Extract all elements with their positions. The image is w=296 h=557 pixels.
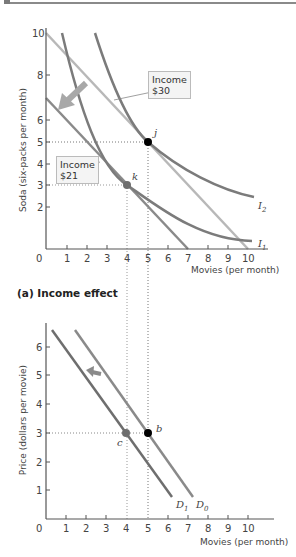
top-y-ticks: 10 8 6 5 4 3 2: [32, 28, 50, 213]
callout-income-30: Income $30: [148, 71, 191, 99]
svg-text:0: 0: [36, 253, 42, 264]
svg-text:10: 10: [242, 253, 255, 264]
i1-label: I1: [257, 238, 266, 252]
point-b: [144, 429, 152, 437]
income-effect-chart: j k I2 I1 10 8 6 5 4 3 2: [18, 28, 279, 520]
svg-text:5: 5: [145, 253, 151, 264]
svg-text:1: 1: [64, 253, 70, 264]
callout-21-line2: $21: [60, 170, 95, 181]
top-y-axis-label: Soda (six-packs per month): [18, 88, 28, 212]
svg-text:8: 8: [205, 523, 211, 534]
svg-text:10: 10: [32, 28, 45, 39]
i2-label: I2: [257, 200, 267, 214]
d0-label: D0: [195, 499, 209, 513]
svg-text:4: 4: [123, 523, 129, 534]
svg-text:6: 6: [36, 342, 42, 353]
svg-text:2: 2: [37, 202, 43, 213]
bottom-x-axis-label: Movies (per month): [200, 537, 288, 547]
svg-text:5: 5: [36, 370, 42, 381]
point-k-label: k: [132, 171, 138, 182]
svg-text:3: 3: [37, 180, 43, 191]
top-x-axis-label: Movies (per month): [191, 265, 279, 275]
svg-text:6: 6: [165, 253, 171, 264]
callout-21-line1: Income: [60, 159, 95, 170]
svg-text:2: 2: [36, 457, 42, 468]
svg-text:5: 5: [37, 137, 43, 148]
demand-curve-d1: [52, 330, 172, 497]
caption-income-effect: (a) Income effect: [17, 287, 118, 299]
top-x-ticks: 0 1 2 3 4 5 6 7 8 9 10: [36, 245, 255, 264]
point-k: [123, 181, 131, 189]
point-c: [122, 429, 130, 437]
callout-income-21: Income $21: [56, 156, 99, 184]
point-c-label: c: [117, 437, 123, 448]
bottom-x-ticks: 0 1 2 3 4 5 6 7 8 9 10: [36, 515, 255, 534]
svg-text:6: 6: [37, 115, 43, 126]
svg-text:1: 1: [63, 523, 69, 534]
point-j: [144, 138, 152, 146]
svg-text:10: 10: [242, 523, 255, 534]
svg-text:9: 9: [225, 253, 231, 264]
bottom-y-ticks: 6 5 4 3 2 1: [36, 342, 50, 496]
svg-text:1: 1: [36, 485, 42, 496]
demand-curve-d0: [75, 330, 193, 497]
svg-text:7: 7: [185, 253, 191, 264]
svg-text:3: 3: [103, 523, 109, 534]
svg-text:3: 3: [36, 428, 42, 439]
svg-text:4: 4: [37, 159, 43, 170]
svg-text:4: 4: [124, 253, 130, 264]
svg-text:6: 6: [165, 523, 171, 534]
svg-text:0: 0: [36, 523, 42, 534]
d1-label: D1: [175, 499, 189, 513]
shift-left-arrow-icon: [86, 366, 101, 377]
svg-text:8: 8: [37, 70, 43, 81]
svg-text:3: 3: [104, 253, 110, 264]
indifference-curve-i2: [95, 33, 254, 197]
point-j-label: j: [152, 127, 157, 138]
svg-text:4: 4: [36, 399, 42, 410]
demand-chart: b c D1 D0 6 5 4 3 2 1: [18, 323, 288, 547]
callout-30-line2: $30: [152, 85, 187, 96]
svg-text:5: 5: [145, 523, 151, 534]
svg-text:2: 2: [83, 523, 89, 534]
svg-text:9: 9: [225, 523, 231, 534]
callout-30-line1: Income: [152, 74, 187, 85]
svg-text:7: 7: [185, 523, 191, 534]
bottom-y-axis-label: Price (dollars per movie): [18, 365, 28, 475]
svg-text:2: 2: [84, 253, 90, 264]
svg-text:8: 8: [205, 253, 211, 264]
point-b-label: b: [156, 423, 162, 434]
